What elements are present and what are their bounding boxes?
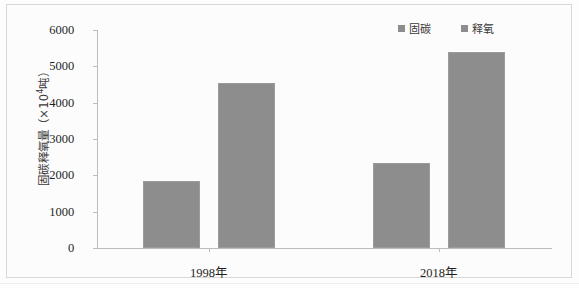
y-axis-title: 固碳释氧量（×104吨） [35,21,51,231]
y-tick-label: 1000 [49,204,74,219]
y-axis-title-exponent: 4 [36,89,45,94]
x-tick-mark [439,248,440,252]
y-tick-label: 2000 [49,168,74,183]
bar-1998-tanxi [143,181,200,248]
scan-artifact-line [0,283,579,284]
y-tick-mark [93,139,98,140]
plot-area: 0 1000 2000 3000 4000 5000 6000 [97,30,552,248]
y-tick-mark [93,212,98,213]
y-tick-mark [93,103,98,104]
y-tick-label: 3000 [49,132,74,147]
y-tick-label: 5000 [49,59,74,74]
x-axis-line [97,248,552,249]
y-tick-label: 0 [68,241,74,256]
bar-1998-shiyang [218,83,275,248]
y-tick-mark [93,66,98,67]
x-tick-mark [209,248,210,252]
bar-2018-shiyang [448,52,505,248]
y-tick-mark [93,175,98,176]
y-tick-mark [93,30,98,31]
y-tick-mark [93,248,98,249]
y-tick-label: 4000 [49,95,74,110]
y-tick-label: 6000 [49,23,74,38]
bar-2018-tanxi [373,163,430,248]
x-tick-label-2018: 2018年 [420,262,458,281]
chart-figure: 固碳释氧量（×104吨） 固碳 释氧 0 1000 2000 [0,0,579,288]
x-tick-label-1998: 1998年 [190,262,228,281]
